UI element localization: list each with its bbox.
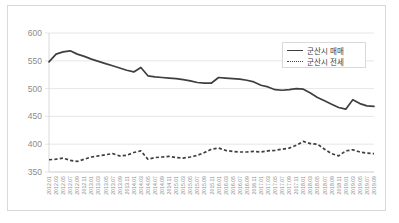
x-axis-tick-label: 2015.03 [180,176,186,195]
y-axis-tick-label: 350 [28,167,42,177]
y-axis-tick-label: 500 [28,84,42,94]
x-axis-tick-label: 2014.11 [166,176,172,194]
x-axis-tick-label: 2012.01 [46,176,52,195]
y-axis-tick-label: 450 [28,111,42,121]
x-axis-tick-label: 2014.01 [131,176,137,195]
legend-label-sale: 군산시 매매 [307,45,344,56]
x-axis-tick-label: 2014.09 [159,176,165,195]
x-axis-tick-label: 2015.01 [173,176,179,195]
x-axis-tick-label: 2012.07 [67,176,73,195]
y-axis-tick-label: 550 [28,56,42,66]
line-chart: 6005505004504003502012.012012.032012.052… [0,0,399,223]
x-axis-tick-label: 2013.09 [117,176,123,195]
x-axis-tick-label: 2018.09 [329,176,335,195]
chart-legend: 군산시 매매 군산시 전세 [282,42,366,68]
x-axis-tick-label: 2013.03 [95,176,101,195]
legend-item-jeonse: 군산시 전세 [287,56,361,67]
x-axis-tick-label: 2016.11 [251,176,257,194]
x-axis-tick-label: 2017.05 [272,176,278,195]
chart-canvas: 6005505004504003502012.012012.032012.052… [0,0,399,223]
x-axis-tick-label: 2017.09 [286,176,292,195]
x-axis-tick-label: 2019.01 [343,176,349,195]
x-axis-tick-label: 2015.07 [194,176,200,195]
x-axis-tick-label: 2019.07 [364,176,370,195]
x-axis-tick-label: 2013.01 [88,176,94,195]
x-axis-tick-label: 2014.05 [145,176,151,195]
x-axis-tick-label: 2017.07 [279,176,285,195]
x-axis-tick-label: 2013.07 [110,176,116,195]
y-axis-tick-label: 400 [28,139,42,149]
x-axis-tick-label: 2019.09 [371,176,377,195]
x-axis-tick-label: 2012.09 [74,176,80,195]
x-axis-tick-label: 2015.09 [201,176,207,195]
x-axis-tick-label: 2015.05 [187,176,193,195]
x-axis-tick-label: 2012.05 [60,176,66,195]
y-axis-tick-label: 600 [28,28,42,38]
x-axis-tick-label: 2016.09 [244,176,250,195]
x-axis-tick-label: 2016.07 [237,176,243,195]
x-axis-tick-label: 2018.11 [336,176,342,194]
legend-label-jeonse: 군산시 전세 [307,56,344,67]
x-axis-tick-label: 2018.07 [322,176,328,195]
x-axis-tick-label: 2017.01 [258,176,264,195]
x-axis-tick-label: 2017.11 [293,176,299,194]
x-axis-tick-label: 2015.11 [209,176,215,194]
x-axis-tick-label: 2018.01 [300,176,306,195]
x-axis-tick-label: 2016.01 [216,176,222,195]
legend-solid-line-icon [287,50,303,51]
x-axis-tick-label: 2018.05 [314,176,320,195]
x-axis-tick-label: 2013.11 [124,176,130,194]
x-axis-tick-label: 2018.03 [307,176,313,195]
x-axis-tick-label: 2014.03 [138,176,144,195]
x-axis-tick-label: 2012.03 [53,176,59,195]
x-axis-tick-label: 2014.07 [152,176,158,195]
x-axis-tick-label: 2019.03 [350,176,356,195]
x-axis-tick-label: 2012.11 [81,176,87,194]
legend-dashed-line-icon [287,61,303,62]
x-axis-tick-label: 2019.05 [357,176,363,195]
x-axis-tick-label: 2016.05 [230,176,236,195]
x-axis-tick-label: 2017.03 [265,176,271,195]
x-axis-tick-label: 2016.03 [223,176,229,195]
x-axis-tick-label: 2013.05 [103,176,109,195]
legend-item-sale: 군산시 매매 [287,45,361,56]
